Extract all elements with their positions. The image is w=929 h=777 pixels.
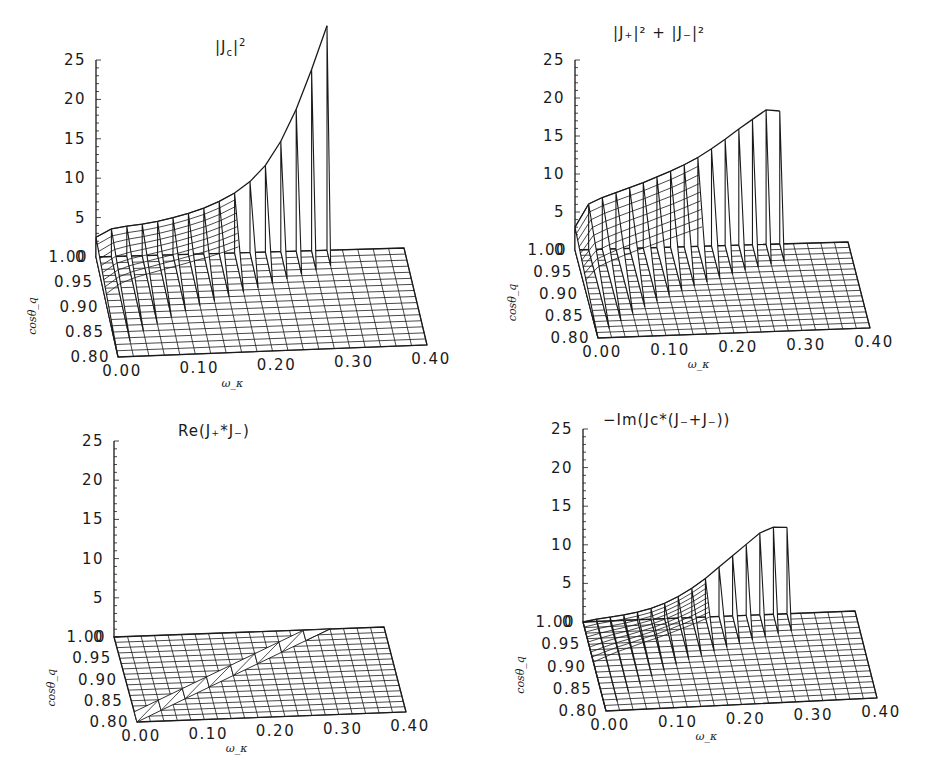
surface-ridge [575,110,780,227]
x-axis-title: ω_κ [695,730,717,743]
z-tick-label: 25 [82,432,104,450]
panel-jc-squared: 05101520250.800.850.900.951.00cosθ_q0.00… [26,26,451,390]
x-tick-label: 0.10 [658,713,697,731]
y-tick-label: 0.90 [539,285,578,303]
z-tick-label: 10 [543,165,565,183]
panel-re-jplus-jminus: 05101520250.800.850.900.951.00cosθ_q0.00… [45,422,430,755]
y-axis-title: cosθ_q [45,669,58,707]
z-tick-label: 10 [551,536,573,554]
panel-title: Re(J₊*J₋) [178,422,250,440]
y-tick-label: 1.00 [67,628,106,646]
y-tick-label: 0.95 [54,273,93,291]
panel-title: −Im(Jc*(J₋+J₋)) [603,411,730,429]
y-tick-label: 1.00 [536,613,575,631]
x-tick-label: 0.00 [582,343,621,361]
y-tick-label: 1.00 [49,248,88,266]
z-tick-label: 5 [75,209,86,227]
z-tick-label: 20 [64,90,86,108]
figure-2x2-surface-plots: 05101520250.800.850.900.951.00cosθ_q0.00… [0,0,929,777]
z-tick-label: 10 [64,169,86,187]
x-tick-label: 0.40 [854,333,893,351]
x-axis-title: ω_κ [226,742,248,755]
y-tick-label: 0.85 [553,680,592,698]
y-tick-label: 0.90 [78,671,117,689]
x-tick-label: 0.00 [590,716,629,734]
y-tick-label: 0.90 [60,298,99,316]
x-tick-label: 0.20 [256,722,295,740]
x-tick-label: 0.40 [861,703,900,721]
z-tick-label: 20 [82,471,104,489]
z-tick-label: 15 [82,510,104,528]
panel-title: |J₊|² + |J₋|² [613,24,705,42]
x-tick-label: 0.10 [180,359,219,377]
y-tick-label: 0.85 [84,692,123,710]
z-tick-label: 10 [82,550,104,568]
y-tick-label: 0.95 [541,635,580,653]
x-axis-title: ω_κ [221,377,243,390]
y-tick-label: 0.85 [545,307,584,325]
y-axis-title: cosθ_q [514,656,527,694]
x-tick-label: 0.30 [323,720,362,738]
z-tick-label: 20 [551,459,573,477]
y-tick-label: 0.85 [65,323,104,341]
panel-neg-im-jc-jminus: 05101520250.800.850.900.951.00cosθ_q0.00… [514,411,901,743]
z-tick-label: 15 [543,127,565,145]
x-tick-label: 0.30 [786,336,825,354]
z-tick-label: 20 [543,89,565,107]
x-tick-label: 0.30 [794,706,833,724]
y-axis-title: cosθ_q [506,284,519,322]
y-tick-label: 0.95 [72,649,111,667]
surface-ridge [583,527,787,622]
x-tick-label: 0.00 [102,362,141,380]
x-tick-label: 0.40 [390,717,429,735]
z-tick-label: 25 [551,420,573,438]
y-tick-label: 1.00 [528,241,567,259]
x-tick-label: 0.10 [650,341,689,359]
x-tick-label: 0.40 [411,350,450,368]
z-tick-label: 5 [554,203,565,221]
z-tick-label: 5 [93,589,104,607]
y-tick-label: 0.90 [547,658,586,676]
x-axis-title: ω_κ [688,358,710,371]
x-tick-label: 0.20 [726,710,765,728]
y-axis-title: cosθ_q [26,297,39,335]
panel-title: |Jc|2 [215,37,246,58]
x-tick-label: 0.00 [121,727,160,745]
z-tick-label: 15 [64,130,86,148]
z-tick-label: 15 [551,497,573,515]
z-tick-label: 25 [543,51,565,69]
z-tick-label: 25 [64,51,86,69]
x-tick-label: 0.20 [718,338,757,356]
surface-ridge [96,26,327,238]
z-tick-label: 5 [562,574,573,592]
x-tick-label: 0.20 [257,356,296,374]
x-tick-label: 0.30 [334,353,373,371]
panel-jplus-jminus-squared: 05101520250.800.850.900.951.00cosθ_q0.00… [506,24,894,371]
x-tick-label: 0.10 [189,725,228,743]
y-tick-label: 0.95 [533,263,572,281]
